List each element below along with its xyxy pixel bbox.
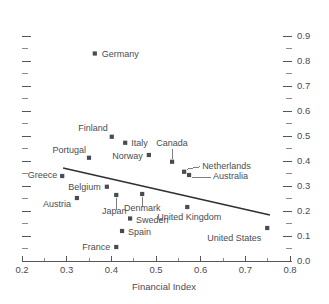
data-point-label: Canada <box>156 138 188 148</box>
data-point-marker <box>147 153 151 157</box>
data-point-label: Belgium <box>68 182 101 192</box>
y-axis-right-ticks: 0.00.10.20.30.40.50.60.70.80.9 <box>283 30 310 266</box>
y-tick-label: 0.2 <box>297 205 310 216</box>
data-point-label: Italy <box>131 138 148 148</box>
x-axis-title: Financial Index <box>132 281 196 292</box>
data-point-marker <box>105 185 109 189</box>
x-tick-label: 0.7 <box>239 264 252 275</box>
data-point-labels: GermanyFinlandItalyNorwayPortugalCanadaN… <box>28 49 262 253</box>
x-tick-label: 0.3 <box>60 264 73 275</box>
x-tick-label: 0.8 <box>283 264 296 275</box>
y-tick-label: 0.4 <box>297 155 310 166</box>
label-leader-line <box>187 167 201 170</box>
data-point-label: Sweden <box>136 215 169 225</box>
y-tick-label: 0.7 <box>297 80 310 91</box>
data-point-label: United States <box>207 233 262 243</box>
x-axis: 0.20.30.40.50.60.70.8 <box>15 256 296 275</box>
plot-area: 0.00.10.20.30.40.50.60.70.80.9 0.20.30.4… <box>0 0 329 304</box>
data-point-marker <box>87 156 91 160</box>
data-point-marker <box>114 193 118 197</box>
data-point-label: Portugal <box>52 145 86 155</box>
data-point-marker <box>182 170 186 174</box>
data-point-label: Australia <box>213 171 248 181</box>
data-point-marker <box>114 245 118 249</box>
data-point-label: Japan <box>102 206 127 216</box>
data-point-label: Greece <box>28 170 58 180</box>
y-tick-label: 0.5 <box>297 130 310 141</box>
scatter-chart: 0.00.10.20.30.40.50.60.70.80.9 0.20.30.4… <box>0 0 329 304</box>
y-tick-label: 0.1 <box>297 230 310 241</box>
y-axis-left-ticks <box>22 36 31 249</box>
data-point-label: Finland <box>78 123 108 133</box>
y-tick-label: 0.6 <box>297 105 310 116</box>
x-tick-label: 0.4 <box>105 264 118 275</box>
data-point-marker <box>120 229 124 233</box>
data-point-marker <box>128 216 132 220</box>
data-point-marker <box>123 141 127 145</box>
data-point-marker <box>140 192 144 196</box>
data-point-marker <box>185 205 189 209</box>
data-point-label: Austria <box>43 199 71 209</box>
y-tick-label: 0.3 <box>297 180 310 191</box>
data-point-label: Spain <box>128 227 151 237</box>
data-point-marker <box>187 173 191 177</box>
label-leader-line <box>192 177 212 178</box>
x-tick-label: 0.6 <box>194 264 207 275</box>
data-point-marker <box>93 51 97 55</box>
y-tick-label: 0.0 <box>297 255 310 266</box>
x-tick-label: 0.5 <box>149 264 162 275</box>
data-point-marker <box>75 196 79 200</box>
data-point-label: France <box>82 242 110 252</box>
data-point-marker <box>265 226 269 230</box>
data-point-marker <box>170 160 174 164</box>
x-tick-label: 0.2 <box>15 264 28 275</box>
y-tick-label: 0.9 <box>297 30 310 41</box>
y-tick-label: 0.8 <box>297 55 310 66</box>
data-point-marker <box>60 174 64 178</box>
data-point-label: Denmark <box>124 203 161 213</box>
data-point-marker <box>110 135 114 139</box>
data-point-label: Norway <box>112 151 143 161</box>
data-point-label: Netherlands <box>202 161 251 171</box>
data-point-label: Germany <box>102 49 140 59</box>
